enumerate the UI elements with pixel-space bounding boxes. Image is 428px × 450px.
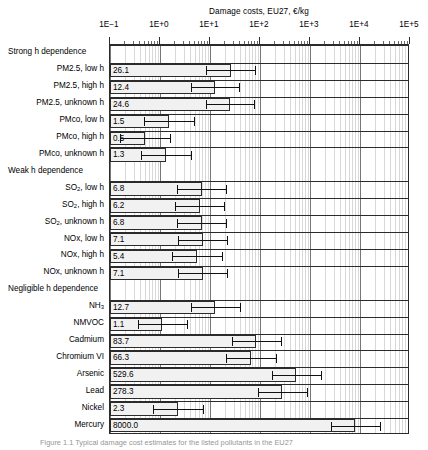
bar-value-label: 6.2 xyxy=(113,199,124,212)
axis-tick-minor xyxy=(389,41,390,45)
axis-tick xyxy=(309,37,310,44)
bar-value-label: 1.1 xyxy=(113,318,124,331)
axis-tick-minor xyxy=(183,41,184,45)
axis-tick-minor xyxy=(274,41,275,45)
axis-tick-minor xyxy=(401,41,402,45)
error-bar-cap-low xyxy=(144,117,145,126)
axis-tick-minor xyxy=(307,41,308,45)
axis-tick-minor xyxy=(233,41,234,45)
gridline-minor xyxy=(390,46,391,433)
x-tick-label: 1E+0 xyxy=(149,20,168,29)
axis-tick-minor xyxy=(283,41,284,45)
error-bar-line xyxy=(178,240,227,241)
error-bar-line xyxy=(206,70,255,71)
axis-tick-minor xyxy=(204,41,205,45)
error-bar-cap-high xyxy=(194,117,195,126)
axis-tick-minor xyxy=(201,41,202,45)
error-bar-cap-high xyxy=(222,252,223,261)
error-bar-cap-high xyxy=(187,320,188,329)
chart-title: Damage costs, EU27, €/kg xyxy=(109,7,409,16)
error-bar-cap-low xyxy=(177,219,178,228)
plot-area: 26.112.424.61.50.51.36.86.26.87.15.47.11… xyxy=(109,45,409,434)
gridline-minor xyxy=(340,46,341,433)
category-label: Nickel xyxy=(0,403,104,412)
error-bar-line xyxy=(191,307,240,308)
axis-tick xyxy=(359,37,360,44)
error-bar-line xyxy=(191,87,239,88)
error-bar-line xyxy=(232,341,281,342)
axis-tick xyxy=(159,37,160,44)
category-label: SO2, high h xyxy=(0,200,104,209)
error-bar-cap-low xyxy=(178,236,179,245)
axis-tick xyxy=(409,37,410,44)
bar-value-label: 7.1 xyxy=(113,267,124,280)
error-bar-cap-high xyxy=(227,236,228,245)
gridline-minor xyxy=(355,46,356,433)
axis-tick-minor xyxy=(157,41,158,45)
category-label: PMco, unknown h xyxy=(0,149,104,158)
bar-value-label: 2.3 xyxy=(113,402,124,415)
error-bar-cap-high xyxy=(254,100,255,109)
error-bar-cap-low xyxy=(175,202,176,211)
gridline-minor xyxy=(375,46,376,433)
category-label: PMco, low h xyxy=(0,115,104,124)
gridline-minor xyxy=(399,46,400,433)
axis-tick-minor xyxy=(224,41,225,45)
error-bar-line xyxy=(175,206,224,207)
axis-tick-minor xyxy=(244,41,245,45)
gridline-minor xyxy=(325,46,326,433)
axis-tick-minor xyxy=(404,41,405,45)
error-bar-line xyxy=(153,409,202,410)
error-bar-line xyxy=(141,155,190,156)
gridline-minor xyxy=(395,46,396,433)
gridline-minor xyxy=(402,46,403,433)
error-bar-line xyxy=(272,375,321,376)
axis-tick-minor xyxy=(394,41,395,45)
error-bar-cap-high xyxy=(227,269,228,278)
bar-value-label: 5.4 xyxy=(113,250,124,263)
category-label: PM2.5, unknown h xyxy=(0,98,104,107)
axis-tick-minor xyxy=(374,41,375,45)
x-tick-label: 1E+3 xyxy=(299,20,318,29)
x-tick-label: 1E+2 xyxy=(249,20,268,29)
axis-tick-minor xyxy=(239,41,240,45)
error-bar-cap-low xyxy=(191,303,192,312)
error-bar-line xyxy=(144,121,194,122)
bar-value-label: 6.8 xyxy=(113,216,124,229)
bar-value-label: 7.1 xyxy=(113,233,124,246)
axis-tick-minor xyxy=(207,41,208,45)
category-label: PMco, high h xyxy=(0,132,104,141)
category-label: Cadmium xyxy=(0,335,104,344)
error-bar-cap-low xyxy=(177,185,178,194)
gridline-minor xyxy=(352,46,353,433)
bar-value-label: 6.8 xyxy=(113,182,124,195)
axis-tick xyxy=(109,37,110,44)
error-bar-cap-low xyxy=(331,422,332,431)
group-header-label: Strong h dependence xyxy=(8,47,108,56)
axis-tick-minor xyxy=(301,41,302,45)
bar-value-label: 278.3 xyxy=(113,385,134,398)
axis-tick-minor xyxy=(251,41,252,45)
category-label: Arsenic xyxy=(0,369,104,378)
axis-tick-minor xyxy=(348,41,349,45)
gridline-minor xyxy=(334,46,335,433)
gridline-minor xyxy=(358,46,359,433)
error-bar-cap-low xyxy=(272,371,273,380)
axis-tick-minor xyxy=(324,41,325,45)
error-bar-line xyxy=(177,223,226,224)
error-bar-cap-high xyxy=(226,185,227,194)
axis-tick-minor xyxy=(339,41,340,45)
axis-tick-minor xyxy=(294,41,295,45)
error-bar-line xyxy=(172,256,222,257)
axis-tick-minor xyxy=(189,41,190,45)
error-bar-line xyxy=(206,104,254,105)
error-bar-line xyxy=(258,392,307,393)
error-bar-cap-low xyxy=(258,388,259,397)
error-bar-cap-low xyxy=(153,405,154,414)
bar-value-label: 66.3 xyxy=(113,351,129,364)
error-bar-cap-high xyxy=(170,134,171,143)
gridline-major xyxy=(360,46,361,433)
axis-tick xyxy=(209,37,210,44)
category-label: PM2.5, high h xyxy=(0,81,104,90)
error-bar-cap-low xyxy=(206,66,207,75)
